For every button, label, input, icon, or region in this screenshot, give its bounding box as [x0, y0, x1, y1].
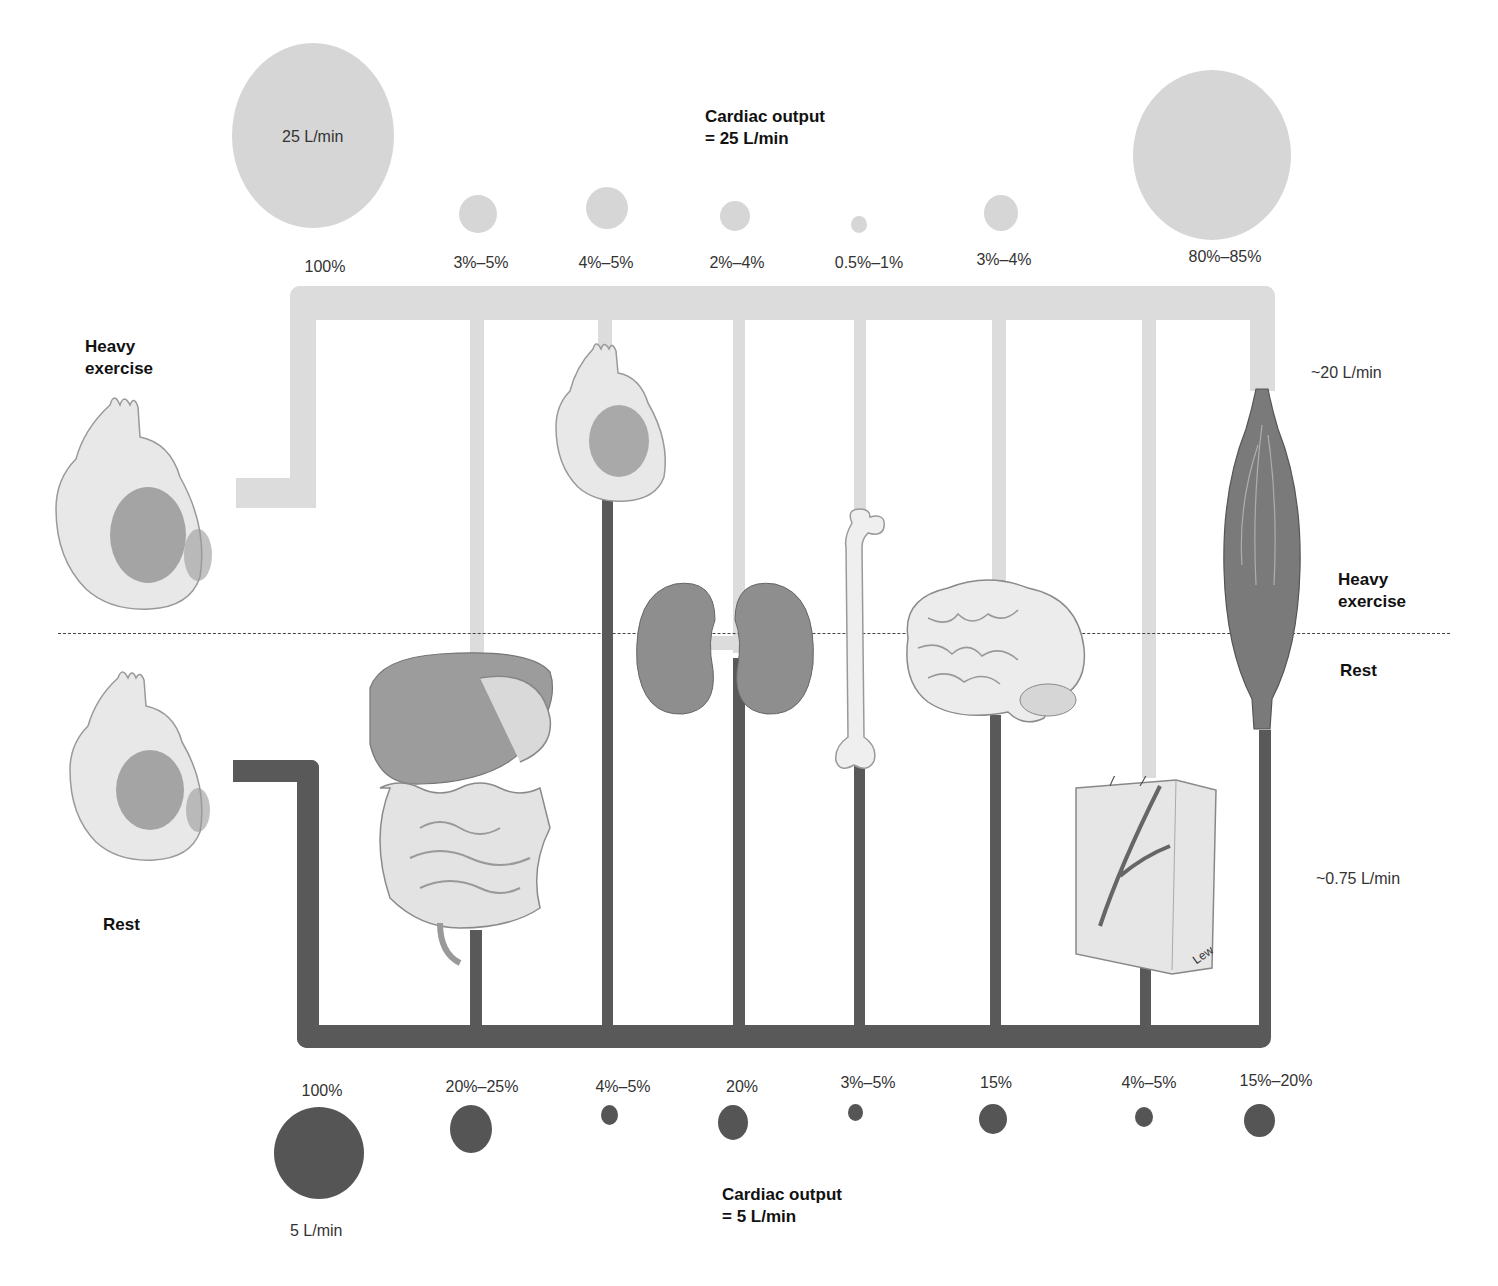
exercise-title-line1: Cardiac output — [705, 106, 825, 128]
heart-rest-illustration — [60, 660, 225, 865]
exercise-bubble-kidney — [720, 201, 750, 231]
exercise-branch-muscle — [1250, 286, 1275, 391]
rest-bubble-bone — [848, 1104, 863, 1121]
exercise-title-line2: = 25 L/min — [705, 128, 825, 150]
exercise-label-left-line1: Heavy — [85, 336, 153, 358]
exercise-main-trunk — [290, 286, 1275, 320]
exercise-pct-muscle: 80%–85% — [1189, 248, 1262, 266]
rest-branch-brain — [990, 715, 1001, 1030]
exercise-branch-bone — [854, 318, 866, 518]
exercise-branch-brain — [992, 318, 1006, 590]
exercise-label-left-line2: exercise — [85, 358, 153, 380]
rest-bubble-gi — [450, 1105, 492, 1153]
exercise-pct-gi: 3%–5% — [453, 254, 508, 272]
rest-pct-brain: 15% — [980, 1074, 1012, 1092]
exercise-branch-gi — [470, 318, 484, 654]
exercise-bubble-gi — [459, 195, 497, 233]
exercise-label-right-line2: exercise — [1338, 591, 1406, 613]
rest-bubble-heart — [601, 1105, 618, 1125]
rest-bubble-skin — [1135, 1107, 1153, 1127]
exercise-pct-kidney: 2%–4% — [709, 254, 764, 272]
exercise-cardiac-output-title: Cardiac output = 25 L/min — [705, 106, 825, 150]
exercise-bubble-bone — [851, 216, 867, 233]
rest-bubble-kidney — [718, 1105, 748, 1140]
rest-label-left: Rest — [103, 914, 140, 936]
skin-rest-flow: ~0.75 L/min — [1316, 870, 1400, 888]
exercise-bubble-heart — [586, 187, 628, 229]
rest-branch-bone — [854, 765, 865, 1030]
exercise-branch-skin — [1142, 318, 1156, 778]
rest-label-right: Rest — [1340, 660, 1377, 682]
exercise-bubble-brain — [984, 195, 1018, 231]
heart-exercise-illustration — [48, 385, 228, 615]
rest-pct-kidney: 20% — [726, 1078, 758, 1096]
rest-title-line1: Cardiac output — [722, 1184, 842, 1206]
skin-illustration — [1070, 776, 1220, 976]
rest-pct-total: 100% — [302, 1082, 343, 1100]
exercise-total-bubble-label: 25 L/min — [282, 128, 343, 146]
heart-coronary-illustration — [545, 335, 680, 505]
rest-pct-skin: 4%–5% — [1121, 1074, 1176, 1092]
muscle-exercise-flow: ~20 L/min — [1311, 364, 1382, 382]
rest-bubble-brain — [979, 1104, 1007, 1134]
rest-pct-muscle: 15%–20% — [1240, 1072, 1313, 1090]
bone-illustration — [832, 505, 892, 770]
exercise-label-right: Heavy exercise — [1338, 569, 1406, 613]
exercise-pct-brain: 3%–4% — [976, 251, 1031, 269]
rest-pct-heart: 4%–5% — [595, 1078, 650, 1096]
rest-inlet-vertical — [297, 760, 319, 1048]
exercise-pct-total: 100% — [305, 258, 346, 276]
rest-bubble-muscle — [1244, 1104, 1275, 1137]
exercise-pct-bone: 0.5%–1% — [835, 254, 904, 272]
exercise-label-left: Heavy exercise — [85, 336, 153, 380]
rest-total-label: 5 L/min — [290, 1222, 342, 1240]
skeletal-muscle-illustration — [1222, 385, 1302, 735]
exercise-label-right-line1: Heavy — [1338, 569, 1406, 591]
kidneys-illustration — [635, 578, 815, 718]
brain-illustration — [888, 578, 1088, 728]
digestive-tract-illustration — [360, 648, 585, 968]
rest-cardiac-output-title: Cardiac output = 5 L/min — [722, 1184, 842, 1228]
rest-pct-gi: 20%–25% — [446, 1078, 519, 1096]
rest-bubble-total — [274, 1107, 364, 1199]
rest-main-trunk — [297, 1025, 1271, 1048]
exercise-pct-heart: 4%–5% — [578, 254, 633, 272]
rest-branch-muscle — [1259, 730, 1271, 1030]
rest-branch-heart — [602, 490, 613, 1030]
rest-title-line2: = 5 L/min — [722, 1206, 842, 1228]
exercise-bubble-muscle — [1133, 70, 1291, 240]
rest-pct-bone: 3%–5% — [840, 1074, 895, 1092]
